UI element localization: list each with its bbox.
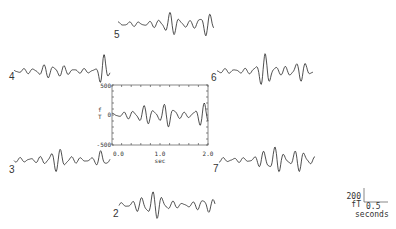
x-tick-0: 0.0 (113, 150, 124, 157)
y-tick-500: 500 (100, 82, 111, 89)
y-unit-t: T (98, 113, 102, 120)
channel-label-6: 6 (211, 72, 217, 83)
waveform-trace (119, 192, 215, 218)
y-unit-f: f (98, 106, 102, 113)
waveform-trace (14, 55, 110, 82)
channel-label-7: 7 (213, 163, 219, 174)
meg-figure: 500 0 -500 f T 0.0 1.0 2.0 sec 5 4 6 3 7… (0, 0, 396, 229)
waveform-trace (112, 103, 208, 127)
trace-group (14, 13, 315, 219)
scale-bar: 200 fT 0.5 seconds (347, 188, 389, 219)
channel-label-4: 4 (9, 71, 15, 82)
y-tick-neg500: -500 (97, 141, 112, 148)
y-tick-0: 0 (107, 111, 111, 118)
waveform-trace (217, 54, 313, 85)
waveform-trace (118, 13, 214, 36)
channel-label-2: 2 (113, 208, 119, 219)
scale-bar-lines (364, 188, 388, 202)
waveform-trace (219, 147, 315, 172)
x-axis-label: sec (155, 157, 166, 164)
waveform-trace (14, 149, 110, 171)
central-panel: 500 0 -500 f T 0.0 1.0 2.0 sec (97, 82, 214, 164)
x-tick-2: 2.0 (203, 150, 214, 157)
x-tick-1: 1.0 (155, 150, 166, 157)
scale-amplitude-unit: fT (351, 200, 361, 209)
channel-label-3: 3 (9, 164, 15, 175)
channel-label-5: 5 (114, 29, 120, 40)
scale-time-unit: seconds (355, 210, 389, 219)
